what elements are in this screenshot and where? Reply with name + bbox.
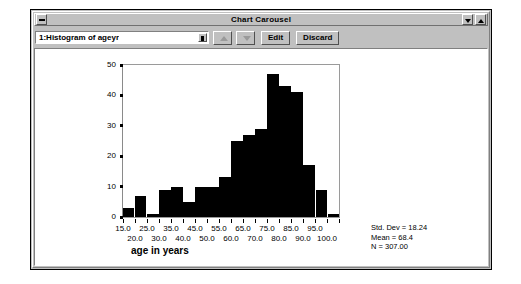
histogram-bar bbox=[243, 135, 254, 217]
minimize-button[interactable] bbox=[462, 14, 473, 25]
minimize-box-icon bbox=[39, 19, 45, 21]
desktop-background: Chart Carousel 1:Histogram of ageyr bbox=[0, 0, 521, 284]
chart-client-area: 01020304050 15.025.035.045.055.065.075.0… bbox=[34, 48, 488, 266]
histogram-bar bbox=[291, 92, 302, 217]
system-menu-button[interactable] bbox=[36, 14, 47, 25]
histogram-bar bbox=[195, 187, 206, 217]
x-axis-tick-label: 85.0 bbox=[278, 224, 304, 233]
triangle-down-icon bbox=[243, 36, 251, 41]
x-axis-tick-label: 100.0 bbox=[314, 234, 340, 243]
std-dev-label: Std. Dev = 18.24 bbox=[371, 223, 427, 233]
x-axis-tick-label: 75.0 bbox=[254, 224, 280, 233]
x-axis-tick bbox=[315, 219, 316, 223]
x-axis-tick-label: 90.0 bbox=[290, 234, 316, 243]
histogram-bar bbox=[316, 190, 327, 217]
y-axis-tick-label: 20 bbox=[96, 152, 116, 160]
x-axis-tick-label: 50.0 bbox=[194, 234, 220, 243]
x-axis-tick bbox=[183, 219, 184, 223]
histogram-bar bbox=[303, 165, 314, 217]
x-axis-tick bbox=[123, 219, 124, 223]
x-axis-title: age in years bbox=[131, 245, 189, 256]
histogram-bar bbox=[231, 141, 242, 217]
x-axis-tick-label: 60.0 bbox=[218, 234, 244, 243]
x-axis-tick bbox=[339, 219, 340, 223]
x-axis-tick-label: 95.0 bbox=[302, 224, 328, 233]
histogram-bar bbox=[159, 190, 170, 217]
n-label: N = 307.00 bbox=[371, 242, 427, 252]
y-axis-tick-label: 40 bbox=[96, 91, 116, 99]
y-axis-tick-label: 30 bbox=[96, 122, 116, 130]
x-axis-tick bbox=[195, 219, 196, 223]
x-axis-tick bbox=[303, 219, 304, 223]
x-axis-tick-label: 30.0 bbox=[146, 234, 172, 243]
y-axis-tick bbox=[120, 124, 123, 127]
discard-button[interactable]: Discard bbox=[296, 31, 339, 45]
histogram-bars bbox=[123, 65, 339, 217]
x-axis-tick-label: 35.0 bbox=[158, 224, 184, 233]
histogram-bar bbox=[183, 202, 194, 217]
histogram-bar bbox=[171, 187, 182, 217]
histogram-bar bbox=[267, 74, 278, 217]
chart-toolbar: 1:Histogram of ageyr Edit Discard bbox=[34, 29, 488, 46]
histogram-bar bbox=[279, 86, 290, 217]
x-axis-tick-label: 15.0 bbox=[110, 224, 136, 233]
chart-carousel-window: Chart Carousel 1:Histogram of ageyr bbox=[30, 9, 492, 270]
x-axis-tick bbox=[231, 219, 232, 223]
mean-label: Mean = 68.4 bbox=[371, 233, 427, 243]
x-axis-tick bbox=[267, 219, 268, 223]
x-axis-tick bbox=[207, 219, 208, 223]
histogram-bar bbox=[255, 129, 266, 217]
chevron-down-icon bbox=[465, 19, 471, 23]
x-axis-tick bbox=[279, 219, 280, 223]
x-axis-tick-label: 70.0 bbox=[242, 234, 268, 243]
maximize-button[interactable] bbox=[475, 14, 486, 25]
y-axis-tick bbox=[120, 185, 123, 188]
x-axis-tick bbox=[291, 219, 292, 223]
histogram-chart: 01020304050 15.025.035.045.055.065.075.0… bbox=[35, 49, 488, 266]
y-axis-tick-label: 10 bbox=[96, 183, 116, 191]
chevron-up-icon bbox=[478, 19, 484, 23]
x-axis-tick-label: 65.0 bbox=[230, 224, 256, 233]
previous-chart-button[interactable] bbox=[213, 31, 232, 45]
y-axis-tick-label: 0 bbox=[96, 213, 116, 221]
x-axis-tick bbox=[171, 219, 172, 223]
statistics-annotation: Std. Dev = 18.24 Mean = 68.4 N = 307.00 bbox=[371, 223, 427, 252]
y-axis-tick bbox=[120, 155, 123, 158]
x-axis-tick-label: 20.0 bbox=[122, 234, 148, 243]
x-axis-tick bbox=[255, 219, 256, 223]
x-axis-tick bbox=[135, 219, 136, 223]
y-axis-tick bbox=[120, 64, 123, 67]
x-axis-tick bbox=[159, 219, 160, 223]
x-axis-tick bbox=[327, 219, 328, 223]
y-axis-tick bbox=[120, 94, 123, 97]
x-axis-tick bbox=[219, 219, 220, 223]
y-axis-tick-label: 50 bbox=[96, 61, 116, 69]
histogram-bar bbox=[328, 214, 339, 217]
histogram-bar bbox=[135, 196, 146, 217]
x-axis-tick-label: 25.0 bbox=[134, 224, 160, 233]
histogram-bar bbox=[207, 187, 218, 217]
x-axis-tick-label: 80.0 bbox=[266, 234, 292, 243]
x-axis-tick-label: 55.0 bbox=[206, 224, 232, 233]
window-title-bar[interactable]: Chart Carousel bbox=[34, 13, 488, 26]
chart-select-value: 1:Histogram of ageyr bbox=[36, 32, 119, 43]
x-axis-tick bbox=[147, 219, 148, 223]
x-axis-tick-label: 45.0 bbox=[182, 224, 208, 233]
edit-button[interactable]: Edit bbox=[261, 31, 290, 45]
histogram-bar bbox=[147, 214, 158, 217]
x-axis-tick-label: 40.0 bbox=[170, 234, 196, 243]
triangle-up-icon bbox=[220, 36, 228, 41]
window-title: Chart Carousel bbox=[35, 14, 487, 25]
spin-arrow-icon[interactable] bbox=[198, 33, 207, 42]
histogram-bar bbox=[219, 177, 230, 217]
x-axis-tick bbox=[243, 219, 244, 223]
histogram-bar bbox=[123, 208, 134, 217]
next-chart-button[interactable] bbox=[236, 31, 255, 45]
chart-select-combobox[interactable]: 1:Histogram of ageyr bbox=[35, 31, 209, 44]
window-controls bbox=[462, 14, 486, 25]
